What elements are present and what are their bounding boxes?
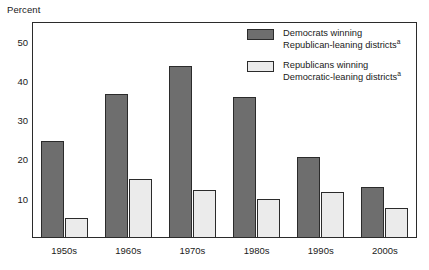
bar-1990s-democrats: [297, 157, 320, 238]
bar-1980s-republicans: [257, 199, 280, 238]
bar-1990s-republicans: [321, 192, 344, 238]
x-axis-label-1970s: 1970s: [179, 245, 205, 256]
footnote-marker: a: [397, 37, 401, 44]
legend-label-line2: Democratic-leaning districtsa: [283, 72, 401, 84]
bar-1960s-democrats: [105, 94, 128, 238]
y-axis-tick-label: 10: [2, 193, 28, 204]
x-axis-label-1950s: 1950s: [51, 245, 77, 256]
x-axis-label-1960s: 1960s: [115, 245, 141, 256]
y-axis-labels: 1020304050: [0, 0, 28, 270]
bar-1950s-republicans: [65, 218, 88, 238]
bar-1960s-republicans: [129, 179, 152, 238]
legend-label-line2: Republican-leaning districtsa: [283, 40, 400, 52]
x-axis-label-1980s: 1980s: [244, 245, 270, 256]
chart-legend: Democrats winningRepublican-leaning dist…: [247, 28, 412, 92]
legend-label-line1: Republicans winning: [283, 60, 401, 72]
bar-1950s-democrats: [41, 141, 64, 238]
legend-label: Republicans winningDemocratic-leaning di…: [283, 60, 401, 83]
light-gray-swatch: [247, 61, 274, 72]
bar-1980s-democrats: [233, 97, 256, 238]
legend-entry-republicans: Republicans winningDemocratic-leaning di…: [247, 60, 412, 83]
legend-label: Democrats winningRepublican-leaning dist…: [283, 28, 400, 51]
legend-label-line1: Democrats winning: [283, 28, 400, 40]
footnote-marker: a: [397, 69, 401, 76]
bar-1970s-democrats: [169, 66, 192, 238]
x-axis-label-2000s: 2000s: [372, 245, 398, 256]
bar-2000s-democrats: [361, 187, 384, 238]
y-axis-tick-label: 50: [2, 36, 28, 47]
chart-figure: Percent 1020304050 1950s1960s1970s1980s1…: [0, 0, 429, 270]
y-axis-tick-label: 30: [2, 115, 28, 126]
bar-2000s-republicans: [385, 208, 408, 238]
bar-1970s-republicans: [193, 190, 216, 238]
legend-entry-democrats: Democrats winningRepublican-leaning dist…: [247, 28, 412, 51]
x-axis-label-1990s: 1990s: [308, 245, 334, 256]
y-axis-tick-label: 20: [2, 154, 28, 165]
y-axis-tick-label: 40: [2, 75, 28, 86]
dark-gray-swatch: [247, 29, 274, 40]
